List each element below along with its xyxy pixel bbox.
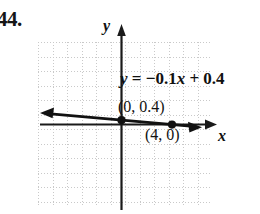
graphed-line-arrow-right	[188, 122, 202, 133]
x-intercept-point-label: (4, 0)	[145, 126, 180, 144]
equation-lhs: y	[120, 69, 128, 88]
figure-container: 44. y x y = −0.1x + 0.4 (0, 0.4) (4, 0)	[0, 0, 260, 214]
equation-rhs-suffix: + 0.4	[185, 69, 224, 88]
y-axis-arrowhead	[117, 24, 126, 36]
y-axis-label: y	[103, 17, 110, 35]
equation-rhs-prefix: −0.1	[146, 69, 177, 88]
equation-rhs-variable: x	[177, 69, 186, 88]
x-axis-label: x	[218, 127, 226, 145]
x-axis-arrowhead	[205, 120, 217, 130]
y-intercept-point	[117, 116, 125, 124]
equation-equals: =	[128, 69, 146, 88]
y-intercept-point-label: (0, 0.4)	[118, 98, 165, 116]
graphed-line-arrow-left	[40, 108, 54, 119]
equation-label: y = −0.1x + 0.4	[120, 69, 225, 89]
